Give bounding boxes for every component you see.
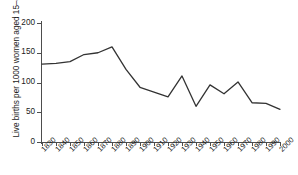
line-series-svg: [0, 0, 298, 175]
chart-container: Live births per 1000 women aged 15–44 05…: [0, 0, 298, 175]
birth-rate-line: [42, 47, 280, 109]
